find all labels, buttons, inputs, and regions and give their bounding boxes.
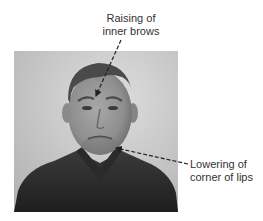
- annotation-arrows: [0, 0, 263, 221]
- arrow-lip-corners: [116, 148, 188, 164]
- annotated-face-figure: Raising of inner brows Lowering of corne…: [0, 0, 263, 221]
- arrow-inner-brows: [96, 40, 121, 96]
